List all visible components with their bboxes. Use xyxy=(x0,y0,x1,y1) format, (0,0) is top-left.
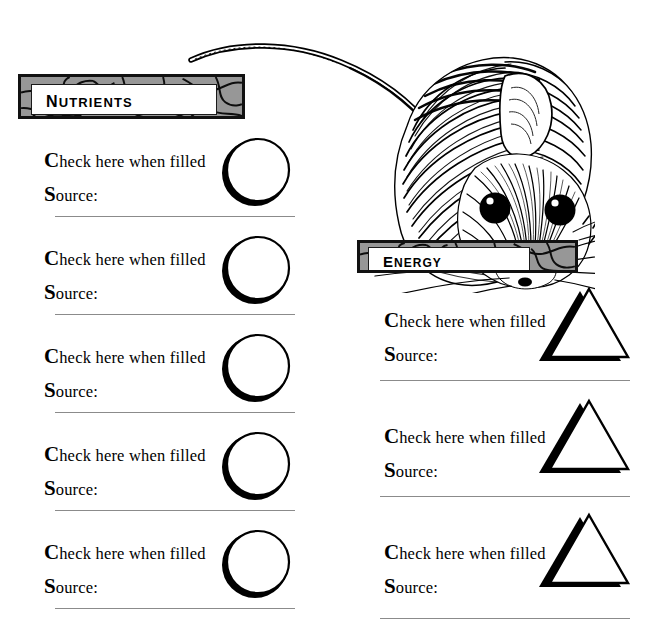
check-label: Check here when filled xyxy=(44,143,206,177)
source-label-initial: S xyxy=(44,378,56,402)
source-label-initial: S xyxy=(44,280,56,304)
source-label-rest: ource: xyxy=(56,480,98,499)
check-label: Check here when filled xyxy=(44,339,206,373)
source-label-initial: S xyxy=(44,182,56,206)
check-label-initial: C xyxy=(44,148,59,172)
check-label-initial: C xyxy=(384,308,399,332)
check-label-rest: heck here when filled xyxy=(59,348,206,367)
check-label-initial: C xyxy=(44,344,59,368)
energy-divider-3 xyxy=(380,618,630,619)
source-label-rest: ource: xyxy=(56,382,98,401)
source-label: Source: xyxy=(44,373,206,407)
source-label-initial: S xyxy=(44,574,56,598)
energy-checkbox-triangle-1[interactable] xyxy=(535,285,631,367)
check-label: Check here when filled xyxy=(384,419,546,453)
source-label-rest: ource: xyxy=(396,462,438,481)
source-label-initial: S xyxy=(44,476,56,500)
source-label-rest: ource: xyxy=(56,186,98,205)
check-label-rest: heck here when filled xyxy=(59,446,206,465)
energy-divider-2 xyxy=(380,496,630,497)
nutrients-row-1-text: Check here when filled Source: xyxy=(44,143,206,211)
nutrients-checkbox-circle-5[interactable] xyxy=(214,524,296,606)
check-label-rest: heck here when filled xyxy=(59,250,206,269)
source-label: Source: xyxy=(384,453,546,487)
energy-divider-1 xyxy=(380,380,630,381)
energy-checkbox-triangle-3[interactable] xyxy=(535,511,631,593)
source-label-rest: ource: xyxy=(396,578,438,597)
source-label: Source: xyxy=(384,337,546,371)
check-label: Check here when filled xyxy=(384,535,546,569)
nutrients-row-5-text: Check here when filled Source: xyxy=(44,535,206,603)
check-label-rest: heck here when filled xyxy=(399,428,546,447)
nutrients-entry-column: Check here when filled Source: Check her… xyxy=(0,0,340,643)
source-label: Source: xyxy=(384,569,546,603)
nutrients-checkbox-circle-1[interactable] xyxy=(214,132,296,214)
nutrients-row-2-text: Check here when filled Source: xyxy=(44,241,206,309)
check-label-initial: C xyxy=(384,424,399,448)
energy-checkbox-triangle-2[interactable] xyxy=(535,397,631,479)
energy-row-3-text: Check here when filled Source: xyxy=(384,535,546,603)
source-label-initial: S xyxy=(384,574,396,598)
check-label-rest: heck here when filled xyxy=(59,152,206,171)
check-label-rest: heck here when filled xyxy=(399,544,546,563)
nutrients-divider-5 xyxy=(55,608,295,609)
energy-row-2-text: Check here when filled Source: xyxy=(384,419,546,487)
check-label: Check here when filled xyxy=(44,241,206,275)
check-label-initial: C xyxy=(384,540,399,564)
nutrients-checkbox-circle-3[interactable] xyxy=(214,328,296,410)
check-label-rest: heck here when filled xyxy=(399,312,546,331)
nutrients-divider-2 xyxy=(55,314,295,315)
nutrients-divider-4 xyxy=(55,510,295,511)
check-label-rest: heck here when filled xyxy=(59,544,206,563)
source-label-initial: S xyxy=(384,458,396,482)
source-label-rest: ource: xyxy=(56,578,98,597)
source-label: Source: xyxy=(44,275,206,309)
check-label: Check here when filled xyxy=(44,437,206,471)
energy-entry-column: Check here when filled Source: Check her… xyxy=(340,0,671,643)
check-label: Check here when filled xyxy=(44,535,206,569)
source-label-rest: ource: xyxy=(56,284,98,303)
check-label: Check here when filled xyxy=(384,303,546,337)
source-label: Source: xyxy=(44,569,206,603)
nutrients-divider-3 xyxy=(55,412,295,413)
nutrients-checkbox-circle-2[interactable] xyxy=(214,230,296,312)
source-label-rest: ource: xyxy=(396,346,438,365)
nutrients-row-3-text: Check here when filled Source: xyxy=(44,339,206,407)
source-label: Source: xyxy=(44,177,206,211)
check-label-initial: C xyxy=(44,246,59,270)
nutrients-row-4-text: Check here when filled Source: xyxy=(44,437,206,505)
nutrients-checkbox-circle-4[interactable] xyxy=(214,426,296,508)
nutrients-divider-1 xyxy=(55,216,295,217)
source-label-initial: S xyxy=(384,342,396,366)
worksheet-page: Nutrients Energy xyxy=(0,0,671,643)
source-label: Source: xyxy=(44,471,206,505)
check-label-initial: C xyxy=(44,540,59,564)
check-label-initial: C xyxy=(44,442,59,466)
energy-row-1-text: Check here when filled Source: xyxy=(384,303,546,371)
